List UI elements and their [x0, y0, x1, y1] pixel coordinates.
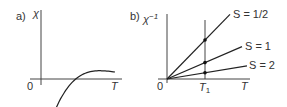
figure: a) χ 0 T b) χ−1 0 T1 T S = 1/2S = 1S = 2 — [0, 0, 287, 107]
panel-a-x-axis-label: T — [111, 80, 119, 92]
line-label-2: S = 2 — [249, 59, 275, 71]
inverse-superscript: −1 — [149, 12, 158, 21]
line-label-0: S = 1/2 — [233, 8, 268, 20]
panel-a-origin-label: 0 — [27, 80, 33, 92]
panel-b-x-axis-label: T — [241, 80, 249, 92]
line-s-0 — [167, 14, 230, 79]
line-s-2 — [167, 66, 247, 79]
t1-label: T1 — [199, 81, 211, 95]
panel-b-y-axis-label: χ−1 — [142, 12, 158, 25]
panel-a-label: a) — [16, 10, 26, 22]
panel-b-origin-label: 0 — [157, 80, 163, 92]
panel-a: a) χ 0 T — [16, 7, 122, 107]
line-label-1: S = 1 — [245, 40, 271, 52]
point-t1-1 — [203, 61, 207, 65]
panel-b: b) χ−1 0 T1 T S = 1/2S = 1S = 2 — [130, 8, 275, 95]
panel-b-label: b) — [130, 10, 140, 22]
panel-a-y-axis-label: χ — [32, 7, 40, 19]
point-t1-0 — [203, 38, 207, 42]
s-lines: S = 1/2S = 1S = 2 — [167, 8, 275, 79]
t1-subscript: 1 — [206, 86, 211, 95]
panel-a-curve — [49, 71, 115, 107]
point-t1-2 — [203, 71, 207, 75]
